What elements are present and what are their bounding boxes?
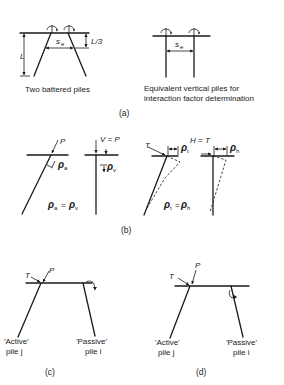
svg-text:ρ: ρ	[47, 199, 54, 210]
svg-text:ρ: ρ	[180, 199, 187, 210]
panel-a: L L/3 s e Two battered piles	[20, 25, 254, 118]
equation-lateral: ρ t = ρ h	[163, 199, 190, 211]
panel-c-label: (c)	[45, 367, 55, 377]
passive-pile-label: 'Passive'	[226, 338, 258, 347]
panel-c: T P 'Active' pile j 'Passive' pile i (c)	[4, 266, 108, 377]
equation-axial: ρ a = ρ v	[47, 199, 78, 211]
equivalent-vertical-piles-figure: s e Equivalent vertical piles for intera…	[144, 28, 254, 103]
dim-L-label: L	[20, 52, 24, 61]
svg-text:=: =	[175, 201, 180, 210]
spacing-symbol: s	[56, 37, 60, 46]
battered-piles-caption: Two battered piles	[25, 85, 90, 94]
battered-pile-left	[34, 33, 51, 76]
svg-text:pile j: pile j	[158, 348, 175, 357]
dim-L3-label: L/3	[91, 37, 103, 46]
spacing-subscript: e	[180, 44, 184, 50]
passive-pile-i	[83, 283, 95, 336]
load-arrow-T	[148, 147, 165, 155]
svg-text:h: h	[236, 148, 239, 154]
panel-d-label: (d)	[196, 367, 207, 377]
panel-b-label: (b)	[121, 225, 132, 235]
load-T-label: T	[169, 272, 175, 281]
svg-text:pile i: pile i	[233, 348, 250, 357]
panel-d: T P 'Active' pile j 'Passive' pile i (d)	[155, 261, 258, 377]
equivalent-caption-line2: interaction factor determination	[144, 94, 254, 103]
vertical-pile-axial: V = P ρ v	[85, 135, 120, 214]
svg-text:ρ: ρ	[163, 199, 170, 210]
load-P-label: P	[60, 137, 66, 146]
passive-pile-label: 'Passive'	[76, 337, 108, 346]
spacing-symbol: s	[175, 40, 179, 49]
battered-piles-figure: L L/3 s e Two battered piles	[20, 25, 103, 94]
rho-a-symbol: ρ	[57, 159, 64, 170]
active-pile-j	[18, 283, 41, 337]
load-T-label: T	[145, 141, 151, 150]
panel-a-label: (a)	[119, 108, 130, 118]
svg-text:a: a	[54, 205, 58, 211]
load-arrow-P	[52, 140, 58, 153]
load-T-label: T	[25, 271, 31, 280]
rho-t-symbol: ρ	[180, 142, 187, 153]
svg-text:v: v	[113, 167, 116, 173]
svg-text:pile i: pile i	[85, 347, 102, 356]
active-pile-label: 'Active'	[155, 338, 180, 347]
settlement-arrow	[52, 161, 55, 167]
svg-text:=: =	[61, 201, 66, 210]
rotation-symbol-icon	[189, 28, 200, 36]
vertical-pile-lateral: H = T ρ h	[190, 136, 239, 215]
svg-text:h: h	[187, 205, 190, 211]
pile-interaction-diagram: L L/3 s e Two battered piles	[0, 0, 284, 385]
load-V-label: V = P	[100, 135, 120, 144]
active-pile-j	[170, 286, 190, 338]
rotation-symbol-icon	[64, 25, 75, 33]
load-arrow-T	[31, 277, 40, 282]
rho-h-symbol: ρ	[229, 142, 236, 153]
svg-text:v: v	[75, 205, 78, 211]
battered-pile-right	[68, 33, 86, 76]
load-H-label: H = T	[190, 136, 211, 145]
rotation-symbol-icon	[47, 25, 58, 33]
svg-text:pile j: pile j	[6, 347, 23, 356]
active-pile-label: 'Active'	[4, 337, 29, 346]
load-arrow-P	[192, 270, 196, 284]
equivalent-caption-line1: Equivalent vertical piles for	[144, 84, 239, 93]
load-P-label: P	[49, 266, 55, 275]
svg-text:a: a	[64, 165, 68, 171]
rho-v-symbol: ρ	[106, 161, 113, 172]
rotation-symbol-icon	[161, 28, 172, 36]
svg-text:ρ: ρ	[68, 199, 75, 210]
svg-text:t: t	[170, 205, 172, 211]
svg-text:t: t	[187, 148, 189, 154]
load-arrow-T	[178, 278, 189, 285]
passive-pile-i	[231, 286, 243, 337]
load-P-label: P	[195, 261, 201, 270]
panel-b: P ρ a V = P ρ v ρ a = ρ v	[22, 135, 239, 235]
spacing-subscript: e	[61, 41, 65, 47]
